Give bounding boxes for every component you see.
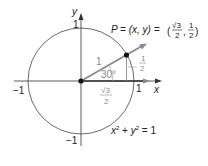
- origin-point: [78, 78, 83, 83]
- adjacent-num: √3: [101, 86, 110, 95]
- point-equation: P = (x, y) =: [111, 24, 160, 35]
- point-y-den: 2: [189, 31, 194, 40]
- eq-plus: +: [119, 125, 130, 136]
- adjacent-den: 2: [104, 97, 109, 106]
- comma: ,: [183, 26, 186, 37]
- opposite-den: 2: [140, 64, 145, 73]
- x-pos-tick-label: 1: [136, 83, 142, 94]
- unit-circle-diagram: y x 1 1 −1 −1 P = (x, y) = ( √3 2 , 1 2 …: [0, 0, 208, 166]
- point-y-num: 1: [189, 21, 194, 30]
- y-neg-tick-label: −1: [66, 135, 78, 146]
- paren-right: ): [195, 26, 198, 37]
- ray-length-label: 1: [96, 56, 102, 67]
- y-pos-tick-label: 1: [73, 19, 79, 30]
- eq-rest: = 1: [139, 125, 156, 136]
- x-axis-label: x: [153, 84, 160, 95]
- point-p: [124, 52, 129, 57]
- y-axis-arrow-icon: [79, 13, 84, 20]
- x-axis-arrow-icon: [155, 79, 162, 84]
- point-x-den: 2: [175, 31, 180, 40]
- x-neg-tick-label: −1: [13, 85, 25, 96]
- y-axis-label: y: [71, 6, 78, 17]
- angle-label: 30°: [101, 69, 116, 80]
- paren-left: (: [167, 26, 171, 37]
- adjacent-arrow-icon: [143, 79, 150, 84]
- opposite-num: 1: [141, 54, 146, 63]
- point-equation-prefix: P = (x, y) =: [111, 24, 160, 35]
- point-x-num: √3: [172, 21, 181, 30]
- circle-equation: x2 + y2 = 1: [110, 125, 156, 136]
